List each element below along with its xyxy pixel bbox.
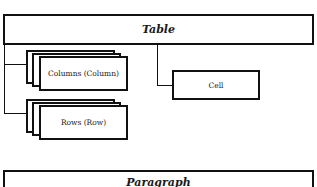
cell-node: Cell (172, 70, 260, 100)
table-node-label: Table (142, 23, 175, 36)
table-node: Table (3, 14, 314, 45)
rows-stack-front: Rows (Row) (39, 105, 128, 140)
rows-connector (4, 113, 27, 114)
rows-node-label: Rows (Row) (61, 118, 106, 127)
columns-connector (4, 64, 27, 65)
cell-connector-vertical (157, 45, 158, 86)
paragraph-node: Paragraph (3, 170, 314, 187)
columns-stack-front: Columns (Column) (39, 56, 128, 91)
cell-node-label: Cell (209, 81, 224, 90)
paragraph-node-label: Paragraph (126, 176, 190, 187)
columns-node-label: Columns (Column) (48, 69, 119, 78)
cell-connector-horizontal (157, 85, 173, 86)
left-connector-vertical (4, 45, 5, 114)
